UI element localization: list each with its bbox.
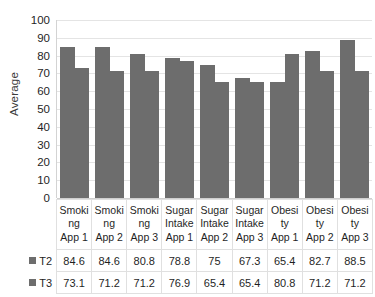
category-line: Obesi — [268, 204, 302, 218]
table-category-header: SmokingApp 3 — [127, 200, 162, 250]
category-line: App 2 — [303, 231, 337, 245]
category-line: ng — [92, 217, 126, 231]
bar-t3 — [110, 71, 125, 198]
bar-group — [302, 20, 337, 198]
table-value-cell: 65.4 — [232, 272, 267, 294]
category-line: App 2 — [197, 231, 231, 245]
bar-t3 — [320, 71, 335, 198]
y-axis-tick-50: 50 — [16, 103, 50, 115]
table-value-cell: 84.6 — [92, 250, 127, 272]
y-axis-tick-40: 40 — [16, 121, 50, 133]
category-line: ty — [338, 217, 372, 231]
legend-label: T3 — [39, 277, 52, 289]
table-value-cell: 78.8 — [162, 250, 197, 272]
legend-entry-t3: T3 — [0, 272, 57, 294]
category-line: Sugar — [162, 204, 196, 218]
table-body: T284.684.680.878.87567.365.482.788.5T373… — [0, 250, 373, 294]
y-axis-tick-30: 30 — [16, 139, 50, 151]
y-axis-tick-80: 80 — [16, 50, 50, 62]
table-value-cell: 88.5 — [337, 250, 372, 272]
bar-t2 — [165, 58, 180, 198]
y-axis-tick-100: 100 — [16, 14, 50, 26]
category-line: ty — [268, 217, 302, 231]
legend-label: T2 — [39, 255, 52, 267]
bar-t3 — [355, 71, 370, 198]
chart-data-table: SmokingApp 1SmokingApp 2SmokingApp 3Suga… — [0, 199, 373, 294]
bar-t2 — [200, 65, 215, 199]
y-axis-tick-20: 20 — [16, 156, 50, 168]
category-line: ty — [303, 217, 337, 231]
table-header-row: SmokingApp 1SmokingApp 2SmokingApp 3Suga… — [0, 200, 373, 250]
table-category-header: SugarIntakeApp 1 — [162, 200, 197, 250]
table-category-header: SmokingApp 1 — [57, 200, 92, 250]
bar-group — [162, 20, 197, 198]
y-axis-tick-10: 10 — [16, 174, 50, 186]
bar-t2 — [60, 47, 75, 198]
table-value-cell: 84.6 — [57, 250, 92, 272]
bar-group — [127, 20, 162, 198]
category-line: App 2 — [92, 231, 126, 245]
category-line: Obesi — [303, 204, 337, 218]
table-value-cell: 73.1 — [57, 272, 92, 294]
y-axis-tick-70: 70 — [16, 67, 50, 79]
table-row: T284.684.680.878.87567.365.482.788.5 — [0, 250, 373, 272]
table-category-header: SmokingApp 2 — [92, 200, 127, 250]
category-line: Sugar — [197, 204, 231, 218]
bar-t3 — [285, 54, 300, 198]
table-corner-cell — [0, 200, 57, 250]
bar-t3 — [75, 68, 90, 198]
table-value-cell: 71.2 — [127, 272, 162, 294]
bar-group — [197, 20, 232, 198]
bar-t2 — [235, 78, 250, 198]
category-line: Intake — [197, 217, 231, 231]
bar-t3 — [215, 82, 230, 198]
table-value-cell: 80.8 — [267, 272, 302, 294]
bar-t2 — [130, 54, 145, 198]
category-line: Obesi — [338, 204, 372, 218]
table-category-header: ObesityApp 2 — [302, 200, 337, 250]
bar-chart-with-data-table: Average 1009080706050403020100 SmokingAp… — [0, 0, 375, 297]
category-line: Smoki — [92, 204, 126, 218]
bar-t3 — [145, 71, 160, 198]
bar-t3 — [250, 82, 265, 198]
bar-group — [337, 20, 372, 198]
bar-series-container — [57, 20, 372, 198]
bar-group — [92, 20, 127, 198]
table-value-cell: 71.2 — [92, 272, 127, 294]
category-line: App 3 — [127, 231, 161, 245]
bar-t3 — [180, 61, 195, 198]
category-line: Intake — [233, 217, 267, 231]
legend-swatch-icon — [29, 257, 36, 264]
table-value-cell: 65.4 — [197, 272, 232, 294]
table-category-header: ObesityApp 1 — [267, 200, 302, 250]
table-value-cell: 76.9 — [162, 272, 197, 294]
legend-entry-t2: T2 — [0, 250, 57, 272]
legend-swatch-icon — [29, 279, 36, 286]
table-value-cell: 67.3 — [232, 250, 267, 272]
y-axis-tick-90: 90 — [16, 32, 50, 44]
y-axis-tick-labels: 1009080706050403020100 — [16, 14, 50, 198]
bar-group — [57, 20, 92, 198]
bar-t2 — [340, 40, 355, 198]
category-line: Smoki — [127, 204, 161, 218]
category-line: App 1 — [57, 231, 91, 245]
table-value-cell: 65.4 — [267, 250, 302, 272]
table-value-cell: 71.2 — [302, 272, 337, 294]
bar-group — [267, 20, 302, 198]
table-category-header: SugarIntakeApp 2 — [197, 200, 232, 250]
table-value-cell: 82.7 — [302, 250, 337, 272]
y-axis-tick-60: 60 — [16, 85, 50, 97]
table-value-cell: 71.2 — [337, 272, 372, 294]
category-line: App 3 — [338, 231, 372, 245]
bar-t2 — [305, 51, 320, 198]
category-line: App 1 — [268, 231, 302, 245]
table-value-cell: 75 — [197, 250, 232, 272]
bar-group — [232, 20, 267, 198]
category-line: App 1 — [162, 231, 196, 245]
bar-t2 — [270, 82, 285, 198]
category-line: ng — [57, 217, 91, 231]
table-row: T373.171.271.276.965.465.480.871.271.2 — [0, 272, 373, 294]
table-category-header: SugarIntakeApp 3 — [232, 200, 267, 250]
plot-area — [56, 20, 372, 198]
category-line: Sugar — [233, 204, 267, 218]
